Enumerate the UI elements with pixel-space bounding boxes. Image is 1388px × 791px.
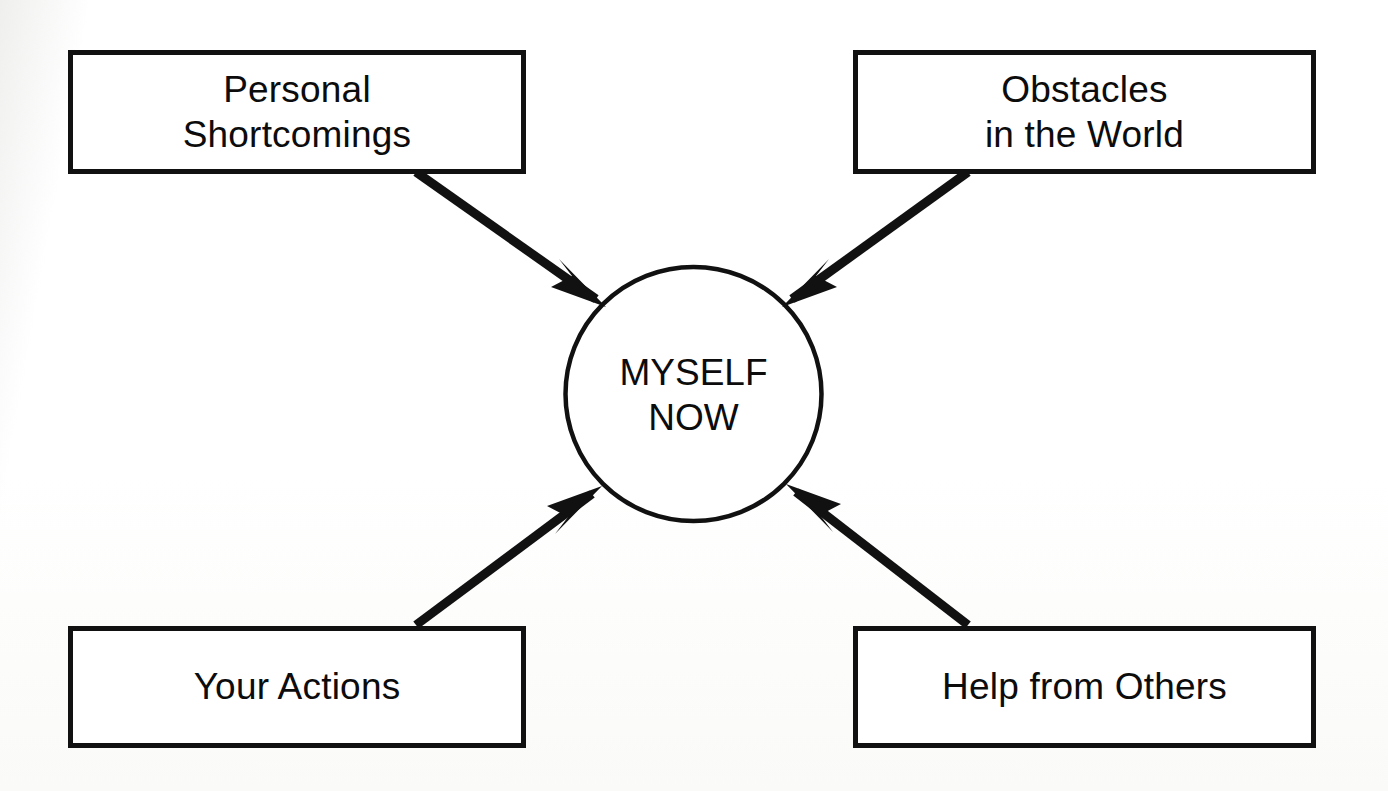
arrow-personal-shortcomings-to-center	[416, 172, 606, 307]
node-label-help-from-others: Help from Others	[942, 664, 1227, 709]
node-your-actions[interactable]: Your Actions	[68, 626, 526, 748]
arrow-your-actions-to-center	[416, 486, 602, 625]
arrow-obstacles-to-center	[782, 172, 968, 307]
node-label-your-actions: Your Actions	[194, 664, 401, 709]
node-help-from-others[interactable]: Help from Others	[853, 626, 1316, 748]
node-label-personal-shortcomings: Personal Shortcomings	[183, 67, 412, 157]
node-obstacles-in-the-world[interactable]: Obstacles in the World	[853, 50, 1316, 174]
diagram-page: Personal Shortcomings Obstacles in the W…	[0, 0, 1388, 791]
node-label-obstacles-in-the-world: Obstacles in the World	[985, 67, 1184, 157]
arrow-help-from-others-to-center	[786, 484, 968, 625]
node-personal-shortcomings[interactable]: Personal Shortcomings	[68, 50, 526, 174]
